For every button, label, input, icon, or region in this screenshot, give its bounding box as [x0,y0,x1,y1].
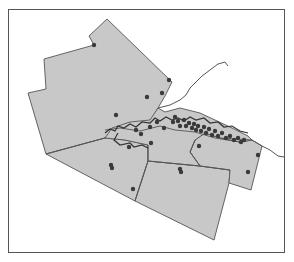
location-marker-icon [176,119,180,123]
location-marker-icon [192,122,196,126]
location-marker-icon [246,170,250,174]
location-marker-icon [224,136,228,140]
location-marker-icon [155,120,159,124]
location-marker-icon [131,187,135,191]
location-marker-icon [228,134,232,138]
location-marker-icon [148,125,152,129]
location-marker-icon [171,120,175,124]
location-marker-icon [187,121,191,125]
location-marker-icon [167,78,171,82]
location-marker-icon [178,124,182,128]
location-marker-icon [114,113,118,117]
location-marker-icon [134,128,138,132]
location-marker-icon [145,95,149,99]
location-marker-icon [182,118,186,122]
location-marker-icon [236,136,240,140]
location-marker-icon [202,125,206,129]
location-marker-icon [256,153,260,157]
location-marker-icon [213,129,217,133]
location-marker-icon [110,166,114,170]
location-marker-icon [179,170,183,174]
location-marker-icon [220,131,224,135]
location-marker-icon [216,134,220,138]
location-marker-icon [149,141,153,145]
location-marker-icon [127,145,131,149]
location-marker-icon [204,131,208,135]
location-marker-icon [139,132,143,136]
location-marker-icon [173,115,177,119]
location-marker-icon [210,133,214,137]
location-marker-icon [194,128,198,132]
location-marker-icon [162,126,166,130]
location-marker-icon [207,127,211,131]
location-marker-icon [196,124,200,128]
location-marker-icon [232,138,236,142]
location-marker-icon [190,126,194,130]
region-map [0,0,294,262]
location-marker-icon [92,43,96,47]
location-marker-icon [197,144,201,148]
location-marker-icon [242,138,246,142]
location-marker-icon [160,91,164,95]
location-marker-icon [199,129,203,133]
